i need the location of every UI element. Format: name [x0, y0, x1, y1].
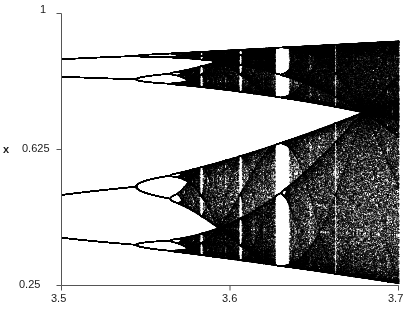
bifurcation-plot-canvas: [0, 0, 419, 313]
x-axis-tick-label-right: 3.7: [388, 293, 403, 304]
x-axis-tick-label-middle: 3.6: [222, 293, 237, 304]
y-axis-tick-label-top: 1: [40, 4, 46, 15]
y-axis-label: x: [3, 144, 9, 155]
y-axis-tick-label-bottom: 0.25: [19, 279, 40, 290]
bifurcation-diagram-figure: x 1 0.625 0.25 3.5 3.6 3.7: [0, 0, 419, 313]
y-axis-tick-label-middle: 0.625: [22, 143, 50, 154]
x-axis-tick-label-left: 3.5: [51, 293, 66, 304]
